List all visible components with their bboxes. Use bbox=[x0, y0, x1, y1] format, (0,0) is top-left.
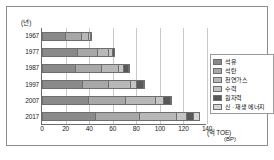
gridline bbox=[207, 28, 208, 124]
legend-label: 석탄 bbox=[225, 68, 236, 74]
legend-item: 석탄 bbox=[213, 66, 271, 75]
y-axis-tick-label: 2007 bbox=[25, 98, 39, 105]
bar-stack bbox=[42, 48, 115, 57]
bar-segment bbox=[43, 49, 77, 56]
bar-segment bbox=[97, 49, 108, 56]
bar-segment bbox=[130, 81, 137, 88]
x-axis-tick-label: 0 bbox=[40, 126, 43, 133]
legend-item: 수력 bbox=[213, 84, 271, 93]
bar-segment bbox=[112, 49, 114, 56]
bar-segment bbox=[139, 113, 176, 120]
bar-segment bbox=[43, 81, 82, 88]
bar-segment bbox=[186, 113, 193, 120]
bar-segment bbox=[125, 97, 155, 104]
legend-item: 원자력 bbox=[213, 93, 271, 102]
gridline bbox=[183, 28, 184, 124]
legend-swatch bbox=[213, 86, 222, 92]
y-axis-tick-label: 1987 bbox=[25, 65, 39, 72]
bar-segment bbox=[82, 81, 108, 88]
bar-segment bbox=[128, 65, 129, 72]
bar-segment bbox=[77, 49, 96, 56]
bar-segment bbox=[163, 97, 170, 104]
y-axis-tick-label: 1977 bbox=[25, 49, 39, 56]
legend-swatch bbox=[213, 104, 222, 110]
legend-label: 석유 bbox=[225, 59, 236, 65]
bar-segment bbox=[193, 113, 199, 120]
bar-segment bbox=[143, 81, 144, 88]
bar-stack bbox=[42, 96, 172, 105]
bar-segment bbox=[75, 65, 101, 72]
bar-segment bbox=[43, 33, 65, 40]
chart-frame: (년) 020406080100120140196719771987199720… bbox=[6, 6, 268, 146]
bar-segment bbox=[108, 81, 130, 88]
bar-segment bbox=[95, 113, 139, 120]
x-axis-tick-label: 40 bbox=[86, 126, 93, 133]
legend-item: 석유 bbox=[213, 57, 271, 66]
bar-segment bbox=[43, 97, 88, 104]
x-axis-tick-label: 20 bbox=[62, 126, 69, 133]
bar-segment bbox=[136, 81, 143, 88]
gridline bbox=[89, 28, 90, 124]
x-axis-tick-label: 100 bbox=[155, 126, 165, 133]
y-axis-tick-label: 1997 bbox=[25, 81, 39, 88]
legend-swatch bbox=[213, 68, 222, 74]
gridline bbox=[160, 28, 161, 124]
chart-figure: (년) 020406080100120140196719771987199720… bbox=[0, 0, 274, 160]
legend-swatch bbox=[213, 77, 222, 83]
legend-item: 신 · 재생 에너지 bbox=[213, 102, 271, 111]
legend-swatch bbox=[213, 95, 222, 101]
bar-stack bbox=[42, 32, 92, 41]
chart-legend: 석유석탄천연가스수력원자력신 · 재생 에너지 bbox=[210, 54, 274, 114]
bar-stack bbox=[42, 80, 145, 89]
gridline bbox=[113, 28, 114, 124]
bar-segment bbox=[65, 33, 81, 40]
legend-label: 신 · 재생 에너지 bbox=[225, 104, 265, 110]
x-axis-tick-label: 120 bbox=[178, 126, 188, 133]
bar-segment bbox=[43, 113, 95, 120]
gridline bbox=[66, 28, 67, 124]
x-axis-tick-label: 80 bbox=[133, 126, 140, 133]
bar-segment bbox=[43, 65, 75, 72]
x-axis-source-label: (BP) bbox=[224, 136, 236, 142]
bar-segment bbox=[90, 33, 91, 40]
y-axis-tick-label: 1967 bbox=[25, 33, 39, 40]
bar-segment bbox=[101, 65, 118, 72]
x-axis-tick-label: 60 bbox=[109, 126, 116, 133]
bar-segment bbox=[88, 97, 125, 104]
bar-stack bbox=[42, 112, 200, 121]
legend-label: 천연가스 bbox=[225, 77, 248, 83]
y-axis-unit-label: (년) bbox=[21, 17, 31, 27]
legend-item: 천연가스 bbox=[213, 75, 271, 84]
legend-label: 원자력 bbox=[225, 95, 242, 101]
bar-segment bbox=[176, 113, 186, 120]
bar-segment bbox=[170, 97, 171, 104]
bar-segment bbox=[155, 97, 163, 104]
legend-swatch bbox=[213, 59, 222, 65]
legend-label: 수력 bbox=[225, 86, 236, 92]
gridline bbox=[136, 28, 137, 124]
y-axis-tick-label: 2017 bbox=[25, 114, 39, 121]
plot-area: 0204060801001201401967197719871997200720… bbox=[41, 28, 206, 125]
bar-stack bbox=[42, 64, 130, 73]
